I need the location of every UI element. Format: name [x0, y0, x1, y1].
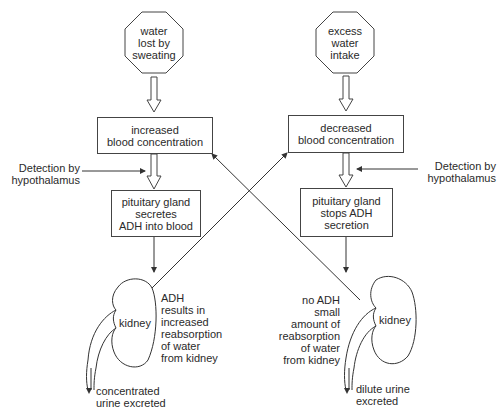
- effect-right-line-1: no ADH: [270, 294, 340, 306]
- effect-right-line-3: amount of: [270, 318, 340, 330]
- effect-left-line-6: from kidney: [161, 352, 222, 364]
- diagram-connectors: [0, 0, 500, 419]
- response-left-line-2: secretes: [119, 208, 193, 220]
- hollow-arrow-left-2: [147, 154, 161, 189]
- output-label-left: concentrated urine excreted: [96, 385, 166, 409]
- stimulus-left-line-1: water: [132, 25, 175, 37]
- stimulus-right-line-2: water: [328, 37, 362, 49]
- state-box-increased: increased blood concentration: [97, 117, 213, 154]
- state-right-line-2: blood concentration: [298, 134, 394, 146]
- response-right-line-1: pituitary gland: [312, 195, 381, 207]
- state-left-line-1: increased: [107, 124, 203, 136]
- detection-label-right: Detection by hypothalamus: [416, 160, 496, 184]
- stimulus-right-line-1: excess: [328, 25, 362, 37]
- effect-left-line-3: increased: [161, 316, 222, 328]
- detection-left-line-2: hypothalamus: [4, 174, 80, 186]
- kidney-icon-left: [87, 279, 157, 390]
- response-right-line-3: secretion: [312, 219, 381, 231]
- effect-right-line-5: of water: [270, 342, 340, 354]
- hollow-arrow-left-1: [147, 77, 161, 112]
- output-label-right: dilute urine excreted: [356, 383, 410, 407]
- pituitary-box-secretes: pituitary gland secretes ADH into blood: [111, 190, 201, 237]
- effect-left-line-1: ADH: [161, 292, 222, 304]
- kidney-label-left: kidney: [117, 317, 153, 329]
- detection-right-line-1: Detection by: [416, 160, 496, 172]
- kidney-label-right: kidney: [377, 314, 413, 326]
- effect-right-line-2: small: [270, 306, 340, 318]
- effect-right-line-6: from kidney: [270, 354, 340, 366]
- stimulus-right-line-3: intake: [328, 49, 362, 61]
- output-right-line-1: dilute urine: [356, 383, 410, 395]
- effect-label-left: ADH results in increased reabsorption of…: [161, 292, 222, 364]
- state-box-decreased: decreased blood concentration: [288, 115, 404, 153]
- output-left-line-1: concentrated: [96, 385, 166, 397]
- detection-right-line-2: hypothalamus: [416, 172, 496, 184]
- urine-arrowhead-right: [344, 388, 350, 394]
- output-left-line-2: urine excreted: [96, 397, 166, 409]
- output-right-line-2: excreted: [356, 395, 410, 407]
- response-left-line-1: pituitary gland: [119, 196, 193, 208]
- effect-right-line-4: reabsorption: [270, 330, 340, 342]
- response-right-line-2: stops ADH: [312, 207, 381, 219]
- hollow-arrow-right-1: [339, 76, 353, 111]
- pituitary-box-stops: pituitary gland stops ADH secretion: [300, 188, 393, 237]
- detection-label-left: Detection by hypothalamus: [4, 162, 80, 186]
- response-left-line-3: ADH into blood: [119, 220, 193, 232]
- effect-label-right: no ADH small amount of reabsorption of w…: [270, 294, 340, 366]
- state-right-line-1: decreased: [298, 122, 394, 134]
- hollow-arrow-right-2: [339, 153, 353, 187]
- state-left-line-2: blood concentration: [107, 136, 203, 148]
- stimulus-label-right: excess water intake: [316, 12, 374, 73]
- stimulus-left-line-2: lost by: [132, 37, 175, 49]
- effect-left-line-5: of water: [161, 340, 222, 352]
- detection-left-line-1: Detection by: [4, 162, 80, 174]
- effect-left-line-4: reabsorption: [161, 328, 222, 340]
- stimulus-left-line-3: sweating: [132, 49, 175, 61]
- effect-left-line-2: results in: [161, 304, 222, 316]
- stimulus-label-left: water lost by sweating: [125, 12, 183, 73]
- urine-arrowhead-left: [86, 388, 92, 394]
- adh-feedback-diagram: water lost by sweating excess water inta…: [0, 0, 500, 419]
- kidney-icon-right: [345, 276, 417, 390]
